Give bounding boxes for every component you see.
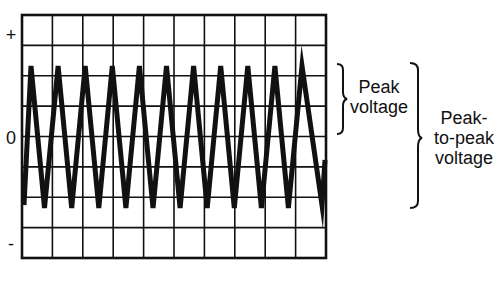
zero-label: 0: [4, 128, 18, 148]
peak-to-peak-voltage-label: Peak- to-peak voltage: [424, 108, 504, 168]
peak-voltage-label: Peak voltage: [343, 77, 415, 117]
minus-label: -: [4, 234, 18, 254]
plus-label: +: [4, 25, 18, 45]
